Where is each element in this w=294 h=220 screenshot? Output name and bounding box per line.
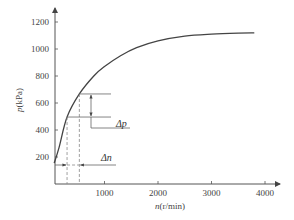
- delta-p-label: Δp: [115, 118, 127, 129]
- axes: [55, 8, 280, 184]
- x-tick-label: 3000: [203, 188, 222, 198]
- y-tick-label: 800: [36, 71, 50, 81]
- y-tick-label: 600: [36, 98, 50, 108]
- y-tick-label: 400: [36, 125, 50, 135]
- pressure-curve: [54, 33, 254, 163]
- x-tick-label: 2000: [149, 188, 168, 198]
- y-axis-title: p(kPa): [14, 88, 24, 113]
- y-axis-ticks: 20040060080010001200: [31, 17, 58, 162]
- x-tick-label: 1000: [96, 188, 115, 198]
- svg-text:p(kPa): p(kPa): [14, 88, 24, 113]
- annotations: [55, 94, 130, 184]
- delta-n-label: Δn: [100, 152, 112, 163]
- x-tick-label: 4000: [256, 188, 275, 198]
- data-curve: [54, 33, 254, 163]
- y-tick-label: 1000: [31, 44, 50, 54]
- x-axis-title: n(r/min): [155, 201, 185, 211]
- y-tick-label: 200: [36, 152, 50, 162]
- y-axis-unit: (kPa): [14, 88, 24, 108]
- y-tick-label: 1200: [31, 17, 50, 27]
- pressure-speed-chart: 20040060080010001200 1000200030004000 p(…: [0, 0, 294, 220]
- x-axis-unit: (r/min): [160, 201, 186, 211]
